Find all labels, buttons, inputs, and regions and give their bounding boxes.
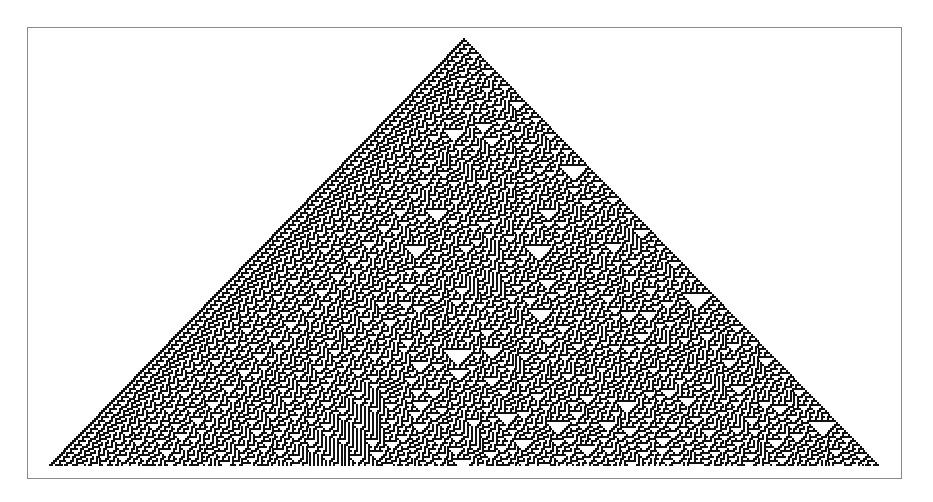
cellular-automaton-pattern — [0, 0, 933, 502]
